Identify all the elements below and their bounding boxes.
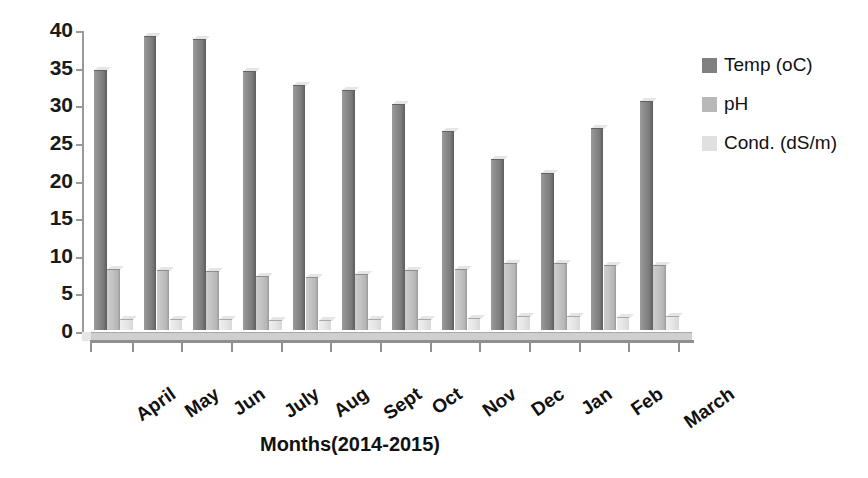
chart-legend: Temp (oC)pHCond. (dS/m) bbox=[702, 53, 868, 170]
legend-item[interactable]: Temp (oC) bbox=[702, 53, 868, 77]
bar-top-cap bbox=[355, 271, 372, 275]
bar-cond[interactable] bbox=[120, 319, 133, 330]
bar-ph[interactable] bbox=[604, 265, 617, 330]
x-tick-label: July bbox=[280, 383, 324, 423]
bar-top-cap bbox=[319, 317, 336, 321]
bar-group bbox=[591, 29, 630, 330]
bar-temp[interactable] bbox=[591, 128, 604, 330]
bar-top-cap bbox=[368, 316, 385, 320]
bar-top-cap bbox=[256, 273, 273, 277]
bar-group bbox=[293, 29, 332, 330]
bar-top-cap bbox=[455, 266, 472, 270]
bar-group bbox=[193, 29, 232, 330]
bar-temp[interactable] bbox=[491, 159, 504, 330]
bar-ph[interactable] bbox=[256, 276, 269, 330]
legend-swatch-icon bbox=[702, 97, 717, 112]
bar-cond[interactable] bbox=[567, 316, 580, 330]
bar-group bbox=[144, 29, 183, 330]
bar-cond[interactable] bbox=[368, 319, 381, 330]
bar-cond[interactable] bbox=[219, 319, 232, 330]
x-tick-label: Nov bbox=[478, 383, 520, 422]
bar-top-cap bbox=[517, 313, 534, 317]
x-tick-mark bbox=[330, 341, 332, 352]
bar-top-cap bbox=[591, 125, 608, 129]
bar-temp[interactable] bbox=[392, 104, 405, 331]
x-tick-mark bbox=[132, 341, 134, 352]
bar-top-cap bbox=[541, 170, 558, 174]
x-tick-mark bbox=[430, 341, 432, 352]
bar-temp[interactable] bbox=[293, 85, 306, 330]
bar-cond[interactable] bbox=[269, 320, 282, 330]
bar-top-cap bbox=[206, 268, 223, 272]
bar-cond[interactable] bbox=[517, 316, 530, 330]
bar-group bbox=[94, 29, 133, 330]
bar-temp[interactable] bbox=[243, 71, 256, 330]
bar-top-cap bbox=[193, 36, 210, 40]
x-tick-mark bbox=[380, 341, 382, 352]
bar-cond[interactable] bbox=[666, 316, 679, 330]
bar-group bbox=[243, 29, 282, 330]
legend-item[interactable]: pH bbox=[702, 92, 868, 116]
y-tick-mark bbox=[76, 294, 84, 296]
bar-temp[interactable] bbox=[94, 70, 107, 330]
bar-group bbox=[541, 29, 580, 330]
y-tick-label: 0 bbox=[33, 319, 73, 343]
bar-ph[interactable] bbox=[306, 277, 319, 330]
x-tick-label: Feb bbox=[627, 383, 667, 420]
x-tick-mark bbox=[579, 341, 581, 352]
x-tick-label: March bbox=[680, 383, 738, 433]
legend-swatch-icon bbox=[702, 136, 717, 151]
bar-top-cap bbox=[342, 87, 359, 91]
bar-ph[interactable] bbox=[157, 270, 170, 330]
bar-top-cap bbox=[269, 317, 286, 321]
legend-item[interactable]: Cond. (dS/m) bbox=[702, 131, 868, 155]
bar-temp[interactable] bbox=[193, 39, 206, 330]
bar-cond[interactable] bbox=[170, 319, 183, 330]
bar-top-cap bbox=[243, 68, 260, 72]
bar-top-cap bbox=[640, 98, 657, 102]
bar-temp[interactable] bbox=[442, 131, 455, 330]
y-tick-label: 30 bbox=[33, 93, 73, 117]
bar-top-cap bbox=[567, 313, 584, 317]
bar-cond[interactable] bbox=[319, 320, 332, 330]
bar-top-cap bbox=[418, 316, 435, 320]
bar-ph[interactable] bbox=[653, 265, 666, 330]
y-tick-mark bbox=[76, 69, 84, 71]
bar-ph[interactable] bbox=[355, 274, 368, 330]
x-tick-mark bbox=[529, 341, 531, 352]
bar-group bbox=[392, 29, 431, 330]
bar-temp[interactable] bbox=[144, 36, 157, 330]
x-tick-mark bbox=[678, 341, 680, 352]
bar-temp[interactable] bbox=[640, 101, 653, 330]
x-tick-label: Jan bbox=[577, 383, 616, 420]
bar-group bbox=[491, 29, 530, 330]
bar-temp[interactable] bbox=[342, 90, 355, 330]
bar-ph[interactable] bbox=[455, 269, 468, 330]
bar-top-cap bbox=[219, 316, 236, 320]
x-tick-label: Jun bbox=[229, 383, 269, 420]
legend-label: Cond. (dS/m) bbox=[724, 132, 837, 154]
legend-label: pH bbox=[724, 93, 748, 115]
bar-cond[interactable] bbox=[617, 317, 630, 330]
bar-ph[interactable] bbox=[107, 269, 120, 330]
bar-ph[interactable] bbox=[504, 263, 517, 330]
bar-top-cap bbox=[491, 156, 508, 160]
y-tick-label: 40 bbox=[33, 18, 73, 42]
bar-top-cap bbox=[617, 314, 634, 318]
bar-ph[interactable] bbox=[206, 271, 219, 330]
legend-label: Temp (oC) bbox=[724, 54, 813, 76]
bar-temp[interactable] bbox=[541, 173, 554, 330]
bar-ph[interactable] bbox=[405, 270, 418, 330]
x-tick-mark bbox=[628, 341, 630, 352]
x-tick-mark bbox=[181, 341, 183, 352]
bar-cond[interactable] bbox=[468, 318, 481, 330]
bar-top-cap bbox=[107, 266, 124, 270]
y-tick-mark bbox=[76, 257, 84, 259]
x-tick-label: Oct bbox=[428, 383, 467, 419]
bar-group bbox=[442, 29, 481, 330]
y-tick-mark bbox=[76, 31, 84, 33]
x-tick-mark bbox=[231, 341, 233, 352]
bar-ph[interactable] bbox=[554, 263, 567, 330]
bar-top-cap bbox=[293, 82, 310, 86]
bar-cond[interactable] bbox=[418, 319, 431, 330]
